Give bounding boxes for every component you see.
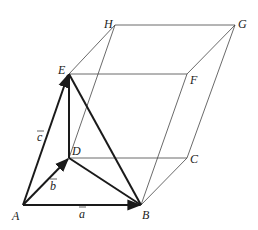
edge-BF xyxy=(141,74,187,205)
vertex-labels: A B C D E F G H xyxy=(11,17,247,223)
label-C: C xyxy=(190,152,199,166)
edge-CB xyxy=(141,158,187,205)
vector-c-arrow xyxy=(23,75,68,205)
label-A: A xyxy=(11,209,20,223)
label-E: E xyxy=(57,63,66,77)
label-G: G xyxy=(238,17,247,31)
label-vector-a: a xyxy=(79,207,85,221)
label-D: D xyxy=(71,144,81,158)
label-F: F xyxy=(189,73,198,87)
vector-b-arrow xyxy=(23,159,68,205)
thin-edges xyxy=(69,25,235,205)
label-vector-b: b xyxy=(50,179,56,193)
edge-FG xyxy=(187,25,235,74)
label-H: H xyxy=(103,17,114,31)
edge-DB xyxy=(69,158,141,205)
edge-HE xyxy=(69,25,115,74)
edge-CG xyxy=(187,25,235,158)
edge-DH xyxy=(69,25,115,158)
label-B: B xyxy=(142,208,150,222)
label-vector-c: c xyxy=(37,130,43,144)
parallelepiped-diagram: A B C D E F G H a b c xyxy=(0,0,258,230)
edge-EB xyxy=(69,74,141,205)
